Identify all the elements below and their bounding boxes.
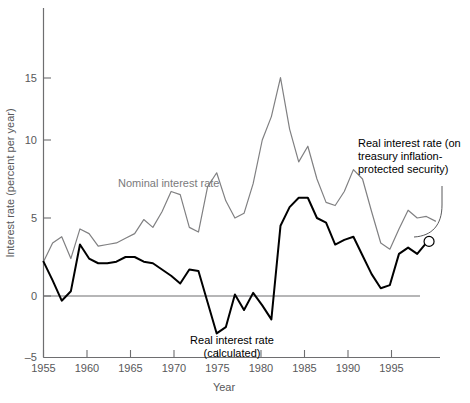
tips-series-label-line3: protected security) (358, 163, 448, 175)
x-tick-label-1955: 1955 (31, 362, 55, 374)
tips-leader-line (414, 186, 442, 237)
x-tick-label-1980: 1980 (249, 362, 273, 374)
y-tick-label-0: 0 (31, 290, 37, 302)
x-tick-label-1990: 1990 (336, 362, 360, 374)
y-tick-label-15: 15 (25, 72, 37, 84)
x-tick-label-1995: 1995 (379, 362, 403, 374)
y-tick-label-5: 5 (31, 212, 37, 224)
x-tick-label-1985: 1985 (292, 362, 316, 374)
x-tick-label-1970: 1970 (162, 362, 186, 374)
x-axis-title: Year (213, 381, 236, 393)
tips-series-label: Real interest rate (on treasury inflatio… (358, 137, 461, 175)
nominal-series-label: Nominal interest rate (118, 177, 220, 189)
real-series-label-line1: Real interest rate (190, 334, 274, 346)
x-tick-label-1975: 1975 (205, 362, 229, 374)
y-tick-labels: 15 10 5 0 –5 (25, 72, 37, 363)
chart-container: 15 10 5 0 –5 1955 1960 1965 1970 1975 19… (0, 0, 470, 403)
tips-data-point-marker (424, 236, 434, 246)
x-tick-label-1965: 1965 (118, 362, 142, 374)
tips-series-label-line1: Real interest rate (on (358, 137, 461, 149)
x-tick-labels: 1955 1960 1965 1970 1975 1980 1985 1990 … (31, 362, 403, 374)
tips-series-label-line2: treasury inflation- (358, 150, 443, 162)
interest-rate-line-chart: 15 10 5 0 –5 1955 1960 1965 1970 1975 19… (0, 0, 470, 403)
y-axis-title: Interest rate (percent per year) (4, 108, 16, 257)
real-series-label-line2: (calculated) (204, 347, 261, 359)
x-tick-label-1960: 1960 (75, 362, 99, 374)
y-tick-label-10: 10 (25, 134, 37, 146)
